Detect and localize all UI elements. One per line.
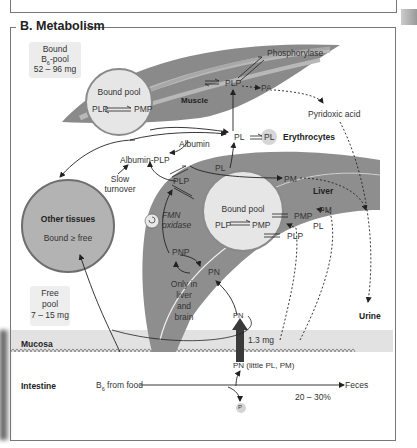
erythrocyte-pl: PL [264, 133, 274, 142]
liver-pl-top: PL [215, 164, 225, 173]
liver-plp-top: PLP [173, 177, 189, 186]
pn-little-to-b6 [236, 371, 240, 386]
only-in-line2: liver [164, 291, 204, 300]
pn-up-to-pn [216, 281, 237, 315]
feces-percentage: 20 – 30% [295, 393, 331, 402]
phosphate-label: P [238, 404, 242, 410]
slow-turnover-line2: turnover [100, 185, 140, 194]
other-tissues-subtitle: Bound ≥ free [22, 234, 114, 243]
free-pool-amount: 7 – 15 mg [27, 311, 73, 320]
muscle-bound-pool-title: Bound pool [86, 88, 152, 97]
only-in-line3: and [164, 302, 204, 311]
albumin-plp-label: Albumin-PLP [120, 156, 170, 165]
liver-pnp: PNP [172, 248, 189, 257]
pn-little-pl-pm: PN (little PL, PM) [233, 362, 294, 370]
muscle-label: Muscle [181, 97, 208, 105]
fmn-oxidase-line2: oxidase [162, 221, 191, 230]
muscle-pool-pmp: PMP [134, 105, 152, 114]
feces-label: Feces [345, 381, 368, 390]
liver-pl-right: PL [313, 222, 323, 231]
liver-bound-pool-title: Bound pool [210, 205, 276, 214]
pa-to-pyridoxic-acid [274, 90, 323, 103]
to-phosphate [228, 387, 240, 401]
albumin-to-pl [130, 132, 226, 140]
liver-pool-pmp: PMP [252, 221, 270, 230]
other-tissues-circle [22, 180, 114, 272]
liver-plp-low: PLP [287, 232, 303, 241]
fmn-cofactor-circle [145, 214, 159, 228]
free-pool-line1: Free [30, 289, 70, 298]
absorption-amount: 1.3 mg [248, 336, 274, 345]
erythrocytes-label: Erythrocytes [283, 133, 335, 142]
b6-from-food: B6 from food [96, 381, 143, 392]
mucosa-pn: PN [233, 312, 243, 320]
mucosa-band [11, 330, 393, 352]
slow-turnover-line1: Slow [100, 175, 140, 184]
intestine-label: Intestine [21, 382, 56, 391]
liver-pn: PN [208, 268, 220, 277]
muscle-pa: PA [261, 84, 272, 93]
liver-label: Liver [313, 187, 333, 196]
phosphorylase-label: Phosphorylase [267, 49, 323, 58]
bound-b6-pool-amount: 52 – 96 mg [29, 65, 81, 74]
muscle-pool-plp: PLP [92, 105, 108, 114]
bound-b6-pool-line1: Bound [29, 45, 81, 54]
pyridoxic-acid-label: Pyridoxic acid [308, 110, 360, 119]
other-tissues-title: Other tissues [22, 215, 114, 224]
liver-pmp: PMP [294, 212, 312, 221]
muscle-plp: PLP [225, 79, 241, 88]
fmn-oxidase-line1: FMN [162, 211, 180, 220]
liver-pool-plp: PLP [215, 221, 231, 230]
muscle-bound-pool-circle [86, 69, 152, 135]
free-pool-line2: pool [30, 300, 70, 309]
slow-turnover-arrow [118, 165, 128, 174]
only-in-line4: brain [164, 313, 204, 322]
liver-pm-top: PM [284, 175, 297, 184]
urine-label: Urine [359, 312, 381, 321]
mucosa-label: Mucosa [21, 340, 53, 349]
mucosa-to-pl [280, 224, 297, 340]
albumin-label: Albumin [179, 140, 210, 149]
only-in-line1: Only in [164, 280, 204, 289]
liver-pm-right: PM [319, 206, 332, 215]
plasma-pl: PL [234, 133, 244, 142]
